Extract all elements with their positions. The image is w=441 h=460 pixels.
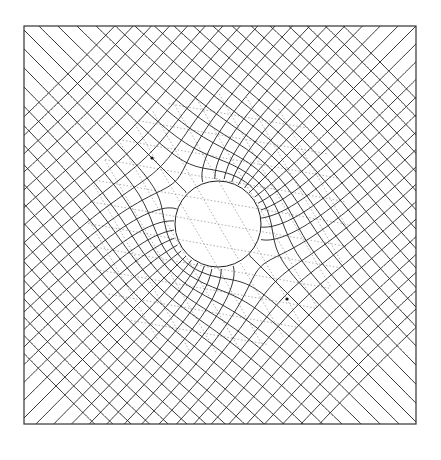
stagnation-point-lower-right xyxy=(285,297,288,300)
stream-line xyxy=(301,20,420,139)
stream-line xyxy=(18,274,172,428)
stream-line xyxy=(18,119,327,428)
potential-line xyxy=(297,305,420,428)
stream-line xyxy=(18,311,135,428)
potential-line xyxy=(138,146,420,428)
stream-line xyxy=(282,20,420,158)
stream-line xyxy=(337,20,420,103)
stream-line xyxy=(18,347,99,428)
potential-line xyxy=(18,20,175,177)
conformal-mesh-figure xyxy=(0,0,441,460)
stream-line xyxy=(319,20,420,121)
stagnation-point-upper-left xyxy=(150,156,153,159)
potential-line xyxy=(18,20,157,159)
stream-line xyxy=(18,255,191,428)
dotted-grid-line xyxy=(96,270,317,309)
potential-line xyxy=(18,20,120,123)
stream-line xyxy=(90,20,420,350)
potential-line xyxy=(18,20,298,300)
potential-line xyxy=(103,111,420,428)
mesh-canvas xyxy=(0,0,441,460)
